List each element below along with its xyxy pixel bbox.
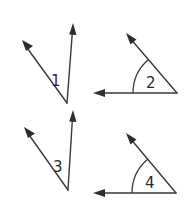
arrowhead-icon [69, 110, 76, 122]
angle-4-label: 4 [145, 174, 155, 192]
arrowhead-icon [93, 89, 105, 97]
arrowhead-icon [126, 133, 137, 145]
angle-1-label: 1 [51, 72, 61, 90]
arrowhead-icon [93, 189, 105, 197]
angle-4: 4 [93, 133, 176, 197]
angle-3-ray-right [68, 116, 73, 190]
angle-1-ray-right [67, 29, 73, 103]
arrowhead-icon [69, 23, 76, 35]
arrowhead-icon [24, 127, 35, 138]
angle-1-ray-left [25, 45, 67, 103]
angle-3: 3 [24, 110, 77, 190]
angle-1: 1 [22, 23, 77, 103]
angle-diagram: 1 2 3 4 [0, 0, 196, 210]
angle-2-label: 2 [146, 74, 156, 92]
arrowhead-icon [22, 40, 33, 51]
angle-3-label: 3 [53, 158, 63, 176]
angle-2: 2 [93, 33, 177, 97]
